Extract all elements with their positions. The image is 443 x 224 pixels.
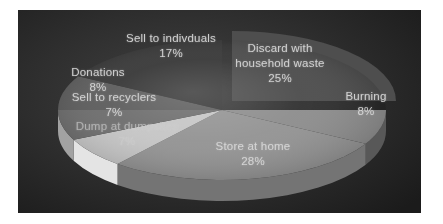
label-store-at-home: Store at home 28% xyxy=(216,139,291,169)
label-pct: 17% xyxy=(126,46,216,61)
label-sell-to-individuals: Sell to indivduals 17% xyxy=(126,31,216,61)
label-text: Discard with household waste xyxy=(228,41,332,71)
label-text: Burning xyxy=(345,89,386,104)
label-pct: 7% xyxy=(72,105,157,120)
label-text: Sell to indivduals xyxy=(126,31,216,46)
label-pct: 7% xyxy=(76,134,178,149)
label-text: Store at home xyxy=(216,139,291,154)
label-text: Dump at dumpsites xyxy=(76,119,178,134)
label-text: Donations xyxy=(71,65,125,80)
label-burning: Burning 8% xyxy=(345,89,386,119)
label-pct: 8% xyxy=(71,80,125,95)
chart-panel: Discard with household waste 25% Burning… xyxy=(18,10,421,213)
page-frame: Discard with household waste 25% Burning… xyxy=(0,0,443,224)
label-dump-at-dumpsites: Dump at dumpsites 7% xyxy=(76,119,178,149)
label-pct: 25% xyxy=(228,70,332,85)
label-discard-with-household-waste: Discard with household waste 25% xyxy=(228,41,332,86)
label-donations: Donations 8% xyxy=(71,65,125,95)
label-pct: 8% xyxy=(345,104,386,119)
label-pct: 28% xyxy=(216,154,291,169)
